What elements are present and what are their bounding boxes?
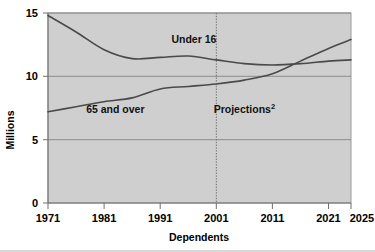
x-tick-label-2011: 2011 bbox=[260, 212, 284, 224]
series-annotation-projections: Projections2 bbox=[214, 102, 275, 115]
y-tick-label-5: 5 bbox=[32, 134, 38, 146]
series-annotation-under-16: Under 16 bbox=[171, 33, 216, 45]
series-annotation-65-and-over: 65 and over bbox=[86, 103, 144, 115]
x-tick-label-1971: 1971 bbox=[36, 212, 60, 224]
x-tick-label-2021: 2021 bbox=[316, 212, 340, 224]
x-tick-label-2025: 2025 bbox=[350, 212, 374, 224]
y-tick-label-10: 10 bbox=[26, 70, 38, 82]
y-tick-label-0: 0 bbox=[32, 197, 38, 209]
x-axis-label: Dependents bbox=[169, 231, 229, 243]
x-tick-label-1991: 1991 bbox=[148, 212, 172, 224]
x-tick-label-1981: 1981 bbox=[92, 212, 116, 224]
x-tick-label-2001: 2001 bbox=[204, 212, 228, 224]
y-tick-label-15: 15 bbox=[26, 7, 38, 19]
line-chart: 15 10 5 0 Millions 1971 1981 1991 2001 2… bbox=[0, 0, 375, 252]
chart-figure: 15 10 5 0 Millions 1971 1981 1991 2001 2… bbox=[0, 0, 375, 252]
y-axis-label: Millions bbox=[4, 110, 16, 149]
